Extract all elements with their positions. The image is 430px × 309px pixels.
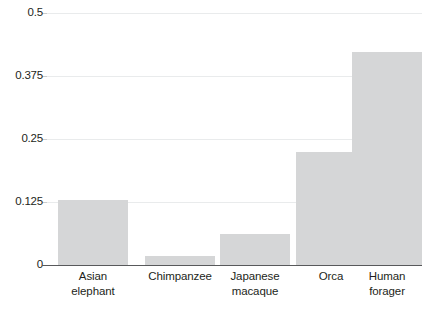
xtick-label-line: elephant [48,284,138,299]
bar-chimpanzee[interactable] [145,256,215,265]
xtick-label-human-forager: Human forager [342,269,430,298]
bar-human-forager[interactable] [352,52,422,265]
bar-japanese-macaque[interactable] [220,234,290,265]
xtick-label-line: Human [342,269,430,284]
xtick-label-line: macaque [209,284,301,299]
xtick-label-line: Asian [48,269,138,284]
xtick-label-asian-elephant: Asian elephant [48,269,138,298]
bar-chart: 0.5 0.375 0.25 0.125 0 Asian elephant Ch… [0,0,430,309]
bar-slot-asian-elephant [58,13,128,265]
bar-slot-chimpanzee [145,13,215,265]
bar-slot-japanese-macaque [220,13,290,265]
bars-layer [0,0,430,309]
bar-slot-human-forager [352,13,422,265]
bar-asian-elephant[interactable] [58,200,128,265]
xtick-label-line: forager [342,284,430,299]
